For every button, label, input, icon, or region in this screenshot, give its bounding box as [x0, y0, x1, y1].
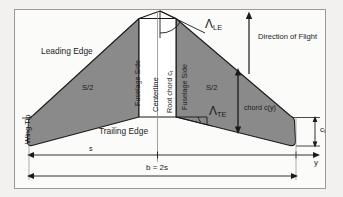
label-fuselage-side-left: Fuselage Side	[134, 60, 141, 106]
direction-of-flight-arrow	[246, 12, 252, 75]
label-chord-cy: chord c(y)	[244, 104, 276, 111]
label-wing-tip: Wing Tip	[24, 114, 32, 144]
tip-chord-subscript: t	[324, 129, 325, 134]
label-spanwise-axis-y: y	[314, 159, 318, 167]
sweep-le-symbol: Λ	[205, 17, 213, 31]
label-sweep-angle-te: ΛTE	[209, 105, 227, 118]
label-centerline: Centerline	[152, 77, 160, 112]
diagram-canvas: Leading Edge Trailing Edge Wing Tip Cent…	[0, 0, 343, 197]
root-chord-subscript: r	[169, 71, 174, 72]
label-area-left: S/2	[82, 84, 93, 92]
sweep-te-symbol: Λ	[209, 104, 217, 118]
label-trailing-edge: Trailing Edge	[99, 127, 148, 135]
sweep-te-subscript: TE	[217, 110, 227, 119]
label-area-right: S/2	[206, 84, 217, 92]
sweep-le-subscript: LE	[213, 23, 222, 32]
label-root-chord: Root chord cr	[166, 71, 174, 113]
label-leading-edge: Leading Edge	[41, 47, 93, 55]
label-direction-of-flight: Direction of Flight	[258, 33, 317, 41]
label-semi-span: s	[89, 145, 93, 152]
span-dimension	[27, 173, 298, 179]
root-chord-text: Root chord c	[165, 72, 174, 113]
label-span: b = 2s	[146, 164, 168, 172]
label-tip-chord: ct	[320, 126, 325, 135]
label-fuselage-side-right: Fuselage Side	[181, 64, 188, 110]
label-sweep-angle-le: ΛLE	[205, 18, 222, 31]
